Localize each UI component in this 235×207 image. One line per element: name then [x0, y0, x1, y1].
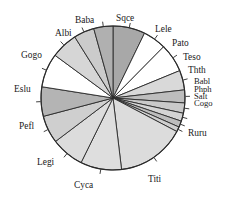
slice-label-ruru: Ruru — [188, 128, 207, 138]
slice-label-pato: Pato — [172, 38, 189, 48]
slice-label-cyca: Cyca — [74, 180, 94, 190]
slice-label-gogo: Gogo — [21, 50, 42, 60]
pie-labels-layer: Sqce Lele Pato Teso Thth Babl Phph Salt … — [0, 0, 235, 207]
slice-label-albi: Albi — [55, 28, 72, 38]
slice-label-baba: Baba — [75, 15, 95, 25]
slice-label-sqce: Sqce — [116, 13, 134, 23]
slice-label-cogo: Cogo — [194, 98, 213, 108]
slice-label-lele: Lele — [155, 24, 172, 34]
pie-chart-figure: Sqce Lele Pato Teso Thth Babl Phph Salt … — [0, 0, 235, 207]
slice-label-eslu: Eslu — [14, 84, 31, 94]
slice-label-legi: Legi — [37, 157, 55, 167]
slice-label-teso: Teso — [183, 52, 201, 62]
slice-label-titi: Titi — [148, 174, 162, 184]
slice-label-pefl: Pefl — [19, 121, 34, 131]
slice-label-thth: Thth — [188, 65, 206, 75]
